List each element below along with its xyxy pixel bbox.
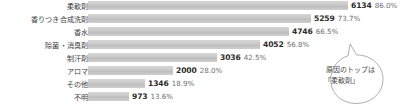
bar-value-label: 973 bbox=[132, 92, 148, 101]
bar-value-label: 1346 bbox=[148, 79, 169, 88]
bar-percent-label: 86.0% bbox=[375, 1, 398, 10]
bar-group: 6134 86.0% bbox=[88, 1, 397, 10]
category-label: 制汗剤 bbox=[0, 54, 88, 63]
bar-group: 5259 73.7% bbox=[88, 14, 360, 23]
bar-value-label: 6134 bbox=[351, 1, 372, 10]
bar-group: 2000 28.0% bbox=[88, 66, 222, 75]
bar-percent-label: 28.0% bbox=[200, 66, 223, 75]
category-label: 香水 bbox=[0, 28, 88, 37]
category-label: 柔軟剤 bbox=[0, 2, 88, 11]
bar bbox=[88, 92, 129, 101]
bar-group: 973 13.6% bbox=[88, 92, 173, 101]
bar-percent-label: 66.5% bbox=[316, 27, 339, 36]
bar-percent-label: 42.5% bbox=[244, 53, 267, 62]
bar-value-label: 3036 bbox=[220, 53, 241, 62]
horizontal-bar-chart: 柔軟剤 6134 86.0% 香りつき合成洗剤 5259 73.7% 香水 47… bbox=[0, 0, 408, 109]
bar-group: 4052 56.8% bbox=[88, 40, 309, 49]
category-label: 不明 bbox=[0, 93, 88, 102]
bar bbox=[88, 66, 173, 75]
chart-row: 香りつき合成洗剤 5259 73.7% bbox=[0, 13, 408, 26]
bar-value-label: 4746 bbox=[292, 27, 313, 36]
bar-percent-label: 13.6% bbox=[151, 92, 174, 101]
bar-group: 1346 18.9% bbox=[88, 79, 194, 88]
chart-row: 香水 4746 66.5% bbox=[0, 26, 408, 39]
bar-value-label: 5259 bbox=[314, 14, 335, 23]
bar-value-label: 2000 bbox=[176, 66, 197, 75]
category-label: アロマ bbox=[0, 67, 88, 76]
category-label: 除菌・消臭剤 bbox=[0, 41, 88, 50]
chart-row: 除菌・消臭剤 4052 56.8% bbox=[0, 39, 408, 52]
bar-group: 3036 42.5% bbox=[88, 53, 266, 62]
bar-group: 4746 66.5% bbox=[88, 27, 338, 36]
bar bbox=[88, 53, 217, 62]
chart-row: アロマ 2000 28.0% bbox=[0, 65, 408, 78]
chart-row: 制汗剤 3036 42.5% bbox=[0, 52, 408, 65]
chart-row: その他 1346 18.9% bbox=[0, 78, 408, 91]
category-label: 香りつき合成洗剤 bbox=[0, 15, 88, 24]
chart-row: 柔軟剤 6134 86.0% bbox=[0, 0, 408, 13]
bar bbox=[88, 1, 348, 10]
bar bbox=[88, 40, 260, 49]
bar-percent-label: 73.7% bbox=[338, 14, 361, 23]
bar bbox=[88, 79, 145, 88]
bar-percent-label: 18.9% bbox=[172, 79, 195, 88]
chart-row: 不明 973 13.6% bbox=[0, 91, 408, 104]
bar-value-label: 4052 bbox=[263, 40, 284, 49]
category-label: その他 bbox=[0, 80, 88, 89]
bar-percent-label: 56.8% bbox=[287, 40, 310, 49]
bar bbox=[88, 27, 289, 36]
bar bbox=[88, 14, 311, 23]
